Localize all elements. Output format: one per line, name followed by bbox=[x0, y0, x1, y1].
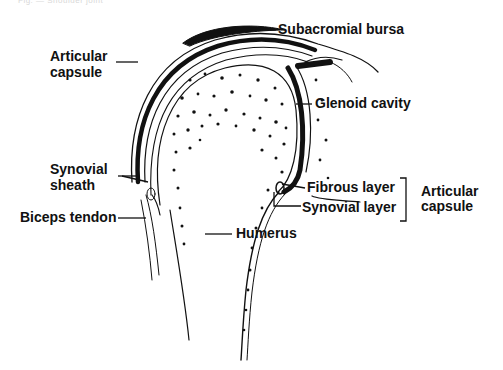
label-articular-capsule-right-line2: capsule bbox=[421, 199, 473, 214]
label-synovial-sheath-line2: sheath bbox=[50, 178, 95, 193]
label-fibrous-layer: Fibrous layer bbox=[307, 180, 395, 195]
label-synovial-sheath-line1: Synovial bbox=[50, 162, 108, 177]
label-subacromial-bursa: Subacromial bursa bbox=[278, 22, 404, 37]
label-articular-capsule-left-line2: capsule bbox=[50, 65, 102, 80]
label-articular-capsule-left-line1: Articular bbox=[50, 49, 108, 64]
label-biceps-tendon: Biceps tendon bbox=[20, 210, 116, 225]
label-humerus: Humerus bbox=[236, 226, 297, 241]
label-synovial-layer: Synovial layer bbox=[302, 200, 396, 215]
label-glenoid-cavity: Glenoid cavity bbox=[315, 96, 411, 111]
label-articular-capsule-right-line1: Articular bbox=[421, 184, 479, 199]
